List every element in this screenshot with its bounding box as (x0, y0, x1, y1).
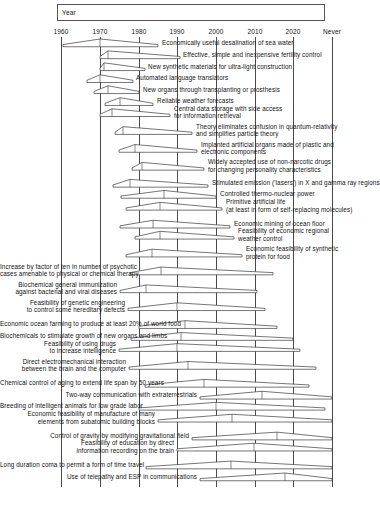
forecast-item-label: Feasibility of using drugs to increase i… (0, 340, 116, 355)
forecast-item-label: Widely accepted use of non-narcotic drug… (208, 158, 331, 173)
forecast-item-label: Biochemical general immunization against… (0, 281, 117, 296)
forecast-item-label: Effective, simple and inexpensive fertil… (183, 51, 322, 58)
forecast-item-label: Theory eliminates confusion in quantum-r… (196, 123, 337, 138)
forecast-item-label: Use of telepathy and ESP in communicatio… (0, 473, 197, 480)
forecast-item-label: Implanted artificial organs made of plas… (201, 141, 334, 156)
forecast-item-label: Economically useful desalination of sea … (162, 39, 294, 46)
forecast-item-label: Increase by factor of ten in number of p… (0, 263, 127, 278)
forecast-item-label: Economic mining of ocean floor (234, 220, 325, 227)
forecast-item-label: Two-way communication with extraterrestr… (0, 391, 197, 398)
forecast-item-label: Feasibility of economic regional weather… (238, 227, 329, 242)
forecast-item-label: Direct electromechanical interaction bet… (0, 358, 126, 373)
forecast-item-label: Biochemicals to stimulate growth of new … (0, 332, 128, 339)
forecast-item-label: Stimulated emission ('lasers') in X and … (212, 179, 380, 186)
forecast-item-label: Economic ocean farming to produce at lea… (0, 320, 136, 327)
forecast-item-label: Economic feasibility of synthetic protei… (246, 245, 338, 260)
forecast-item-label: Controlled thermo-nuclear power (220, 190, 315, 197)
forecast-item-label: Long duration coma to permit a form of t… (0, 461, 143, 468)
forecast-item-label: Feasibility of education by direct infor… (0, 439, 174, 454)
forecast-item-label: New synthetic materials for ultra-light … (148, 63, 292, 70)
forecast-item-label: New organs through transplanting or pros… (143, 86, 280, 93)
forecast-item-label: Chemical control of aging to extend life… (0, 379, 142, 386)
forecast-item-label: Automated language translators (136, 74, 228, 81)
forecast-item-label: Economic feasibility of manufacture of m… (0, 410, 155, 425)
forecast-item-label: Primitive artificial life (at least in f… (226, 198, 352, 213)
forecast-item-label: Control of gravity by modifying gravitat… (0, 432, 189, 439)
forecast-item-label: Breeding of intelligent animals for low … (0, 402, 136, 409)
forecast-item-label: Central data storage with side access fo… (174, 105, 282, 120)
forecast-item-label: Feasibility of genetic engineering to co… (0, 299, 125, 314)
forecast-item-label: Reliable weather forecasts (157, 97, 234, 104)
